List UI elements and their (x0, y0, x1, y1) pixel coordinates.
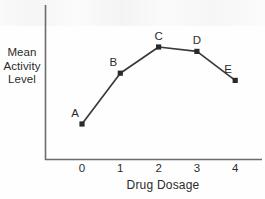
y-axis-label-line-2: Activity (1, 60, 43, 74)
data-point-marker (79, 121, 84, 126)
x-axis-tick-4: 4 (223, 162, 247, 174)
data-point-label-C: C (149, 30, 169, 42)
x-axis-tick-2: 2 (147, 162, 171, 174)
y-axis-label-line-3: Level (1, 73, 43, 87)
data-point-label-D: D (187, 34, 207, 46)
y-axis-label-line-1: Mean (1, 46, 43, 60)
chart-figure: Mean Activity Level 01234 ABCDE Drug Dos… (0, 0, 265, 199)
data-point-marker (156, 44, 161, 49)
x-axis-tick-0: 0 (70, 162, 94, 174)
y-axis-label: Mean Activity Level (1, 46, 43, 87)
x-axis-title: Drug Dosage (103, 178, 223, 192)
data-point-label-E: E (218, 63, 238, 75)
data-point-marker (118, 71, 123, 76)
x-axis-tick-1: 1 (108, 162, 132, 174)
data-point-marker (233, 78, 238, 83)
data-point-label-B: B (103, 56, 123, 68)
x-axis-tick-3: 3 (185, 162, 209, 174)
data-point-label-A: A (65, 107, 85, 119)
data-point-marker (194, 49, 199, 54)
